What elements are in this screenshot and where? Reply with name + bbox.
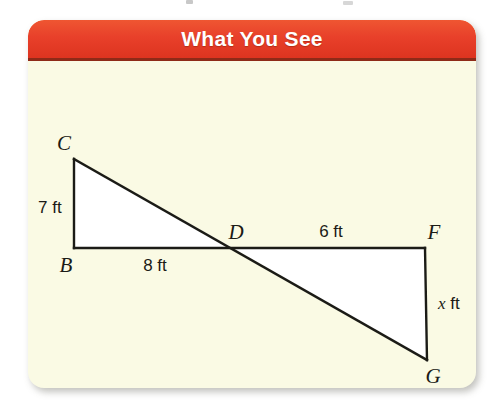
measure-label-df: 6 ft <box>319 222 343 241</box>
vertex-label-b: B <box>60 253 73 277</box>
card-header: What You See <box>28 20 476 61</box>
card-body: C B D F G 7 ft 8 ft 6 ft x ft <box>28 61 476 388</box>
measure-label-fg: x ft <box>437 294 460 313</box>
what-you-see-card: What You See C B D F <box>28 20 476 388</box>
measure-label-bd: 8 ft <box>143 256 167 275</box>
measure-label-cb: 7 ft <box>38 198 62 217</box>
vertex-label-g: G <box>425 364 440 388</box>
card-title: What You See <box>181 27 323 51</box>
cropped-text-mark <box>343 1 353 5</box>
vertex-label-c: C <box>57 131 72 155</box>
geometry-figure: C B D F G 7 ft 8 ft 6 ft x ft <box>28 61 476 388</box>
vertex-label-d: D <box>227 220 243 244</box>
page-top-bleed <box>0 0 500 14</box>
cropped-text-mark <box>186 0 193 4</box>
measure-unit-label: ft <box>450 294 460 313</box>
vertex-label-f: F <box>427 220 441 244</box>
